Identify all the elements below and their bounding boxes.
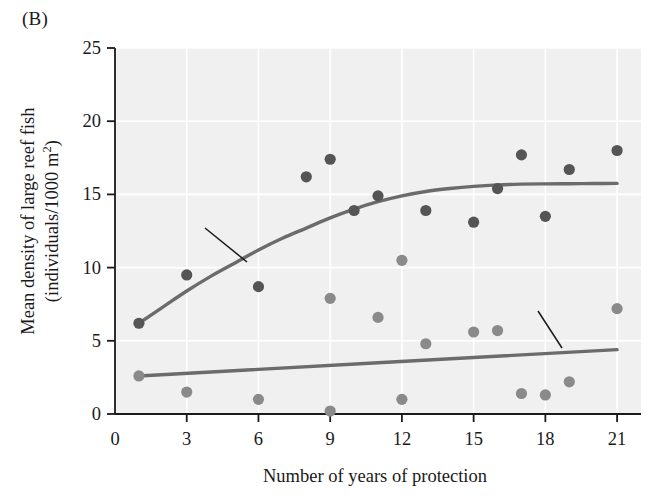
data-point [468,326,479,337]
data-point [301,171,312,182]
data-point [133,318,144,329]
data-point [253,394,264,405]
data-point [611,145,622,156]
data-point [396,394,407,405]
data-point [372,312,383,323]
data-point [396,255,407,266]
data-point [253,281,264,292]
data-point [133,370,144,381]
data-point [372,190,383,201]
plot-background [115,48,641,414]
data-point [516,149,527,160]
scatter-plot-canvas [0,0,662,504]
data-point [325,154,336,165]
data-point [181,386,192,397]
data-point [564,376,575,387]
data-point [468,217,479,228]
data-point [325,293,336,304]
data-point [564,164,575,175]
data-point [492,183,503,194]
data-point [181,269,192,280]
data-point [540,389,551,400]
data-point [516,388,527,399]
data-point [492,325,503,336]
data-point [325,405,336,416]
data-point [540,211,551,222]
data-point [420,338,431,349]
data-point [348,205,359,216]
data-point [420,205,431,216]
data-point [611,303,622,314]
